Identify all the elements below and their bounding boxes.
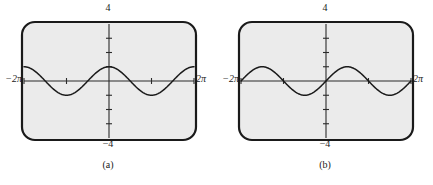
x-max-label-a: 2π — [196, 74, 218, 84]
x-max-label-b: 2π — [413, 74, 433, 84]
y-max-label-b: 4 — [217, 3, 433, 13]
caption-a: (a) — [0, 160, 216, 170]
panel-a: 4 −4 −2π 2π (a) — [0, 0, 216, 185]
graph-screen-a — [0, 0, 216, 150]
y-min-label-b: −4 — [217, 139, 433, 149]
x-min-label-a: −2π — [0, 74, 22, 84]
x-min-label-b: −2π — [217, 74, 239, 84]
calculator-screens-figure: 4 −4 −2π 2π (a) 4 −4 −2π 2π (b) — [0, 0, 433, 185]
caption-b: (b) — [217, 160, 433, 170]
graph-screen-b — [217, 0, 433, 150]
y-min-label-a: −4 — [0, 139, 216, 149]
panel-b: 4 −4 −2π 2π (b) — [217, 0, 433, 185]
y-max-label-a: 4 — [0, 3, 216, 13]
